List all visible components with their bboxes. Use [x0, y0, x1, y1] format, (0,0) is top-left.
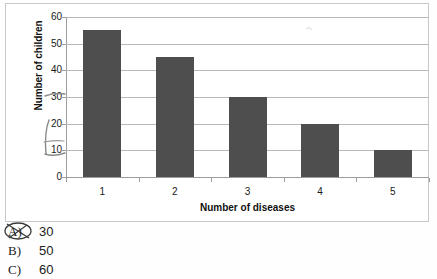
answer-option[interactable]: B)50 [2, 243, 202, 262]
option-value: 50 [39, 243, 53, 258]
y-tick-label: 30 [38, 92, 62, 102]
y-tickmark [61, 44, 66, 45]
option-letter: C) [8, 262, 21, 278]
answer-options-list: A)30B)50C)60 [2, 224, 202, 279]
gridline [66, 177, 429, 178]
y-tick-label: 40 [38, 65, 62, 75]
option-letter: B) [8, 243, 21, 259]
y-tick-label: 10 [38, 145, 62, 155]
bar [301, 124, 339, 177]
x-tickmark [429, 178, 430, 182]
x-tickmark [211, 178, 212, 182]
bar [374, 150, 412, 177]
plot-area [66, 17, 429, 177]
y-tick-label: 50 [38, 39, 62, 49]
x-tickmark [66, 178, 67, 182]
x-tick-label: 3 [228, 186, 268, 197]
x-tickmark [139, 178, 140, 182]
y-tickmark [61, 17, 66, 18]
option-letter: A) [8, 224, 22, 240]
bar [229, 97, 267, 177]
y-tick-label: 0 [38, 172, 62, 182]
x-tickmark [284, 178, 285, 182]
y-tickmark [61, 97, 66, 98]
y-tickmark [61, 150, 66, 151]
x-axis-title: Number of diseases [66, 202, 429, 213]
option-value: 30 [39, 224, 53, 239]
y-tick-label: 60 [38, 12, 62, 22]
y-tick-label: 20 [38, 119, 62, 129]
x-tick-label: 4 [300, 186, 340, 197]
gridline [66, 17, 429, 18]
x-tick-label: 5 [373, 186, 413, 197]
y-axis-tick-labels: 0102030405060 [38, 12, 62, 176]
answer-option[interactable]: C)60 [2, 262, 202, 279]
x-tickmark [356, 178, 357, 182]
x-tick-label: 1 [82, 186, 122, 197]
bar [83, 30, 121, 177]
y-tickmark [61, 124, 66, 125]
scanned-page: Number of children 0102030405060 12345 N… [0, 0, 437, 279]
option-value: 60 [39, 262, 53, 277]
answer-option[interactable]: A)30 [2, 224, 202, 243]
x-tick-label: 2 [155, 186, 195, 197]
y-tickmark [61, 70, 66, 71]
bar [156, 57, 194, 177]
chart-frame: Number of children 0102030405060 12345 N… [5, 3, 429, 222]
